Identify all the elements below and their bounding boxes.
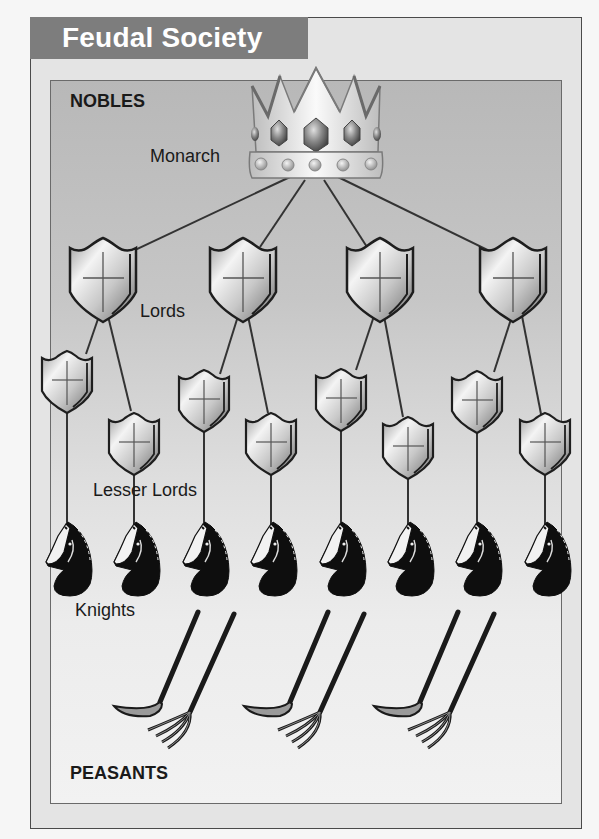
hierarchy-diagram bbox=[0, 0, 599, 839]
knight-horse-icon bbox=[320, 522, 366, 596]
peasants-label: PEASANTS bbox=[70, 763, 168, 784]
knight-horse-icon bbox=[251, 522, 297, 596]
lesser-lord-shield-icon bbox=[316, 369, 366, 431]
lesser-lord-shield-icon bbox=[179, 370, 229, 432]
lesser-lord-shield-icon bbox=[520, 413, 570, 475]
lesser-lord-shield-icon bbox=[42, 351, 92, 413]
lords-label: Lords bbox=[140, 301, 185, 322]
knight-horse-icon bbox=[183, 522, 229, 596]
scythe-and-pitchfork-icon bbox=[114, 612, 234, 748]
scythe-and-pitchfork-icon bbox=[244, 612, 364, 748]
lord-shield-icon bbox=[210, 238, 276, 322]
crown-icon bbox=[249, 68, 382, 178]
nobles-label: NOBLES bbox=[70, 91, 145, 112]
knights-label: Knights bbox=[75, 600, 135, 621]
knight-horse-icon bbox=[114, 522, 160, 596]
knight-horse-icon bbox=[525, 522, 571, 596]
knight-horse-icon bbox=[456, 522, 502, 596]
lesser-lord-shield-icon bbox=[383, 417, 433, 479]
lesser-lord-shield-icon bbox=[109, 413, 159, 475]
lord-shield-icon bbox=[347, 238, 413, 322]
knight-horse-icon bbox=[388, 522, 434, 596]
monarch-label: Monarch bbox=[150, 146, 220, 167]
lesser-lords-label: Lesser Lords bbox=[93, 480, 197, 501]
lesser-lord-shield-icon bbox=[246, 413, 296, 475]
knight-horse-icon bbox=[46, 522, 92, 596]
lesser-lord-shield-icon bbox=[452, 371, 502, 433]
lord-shield-icon bbox=[480, 238, 546, 322]
lord-shield-icon bbox=[70, 238, 136, 322]
scythe-and-pitchfork-icon bbox=[374, 612, 494, 748]
